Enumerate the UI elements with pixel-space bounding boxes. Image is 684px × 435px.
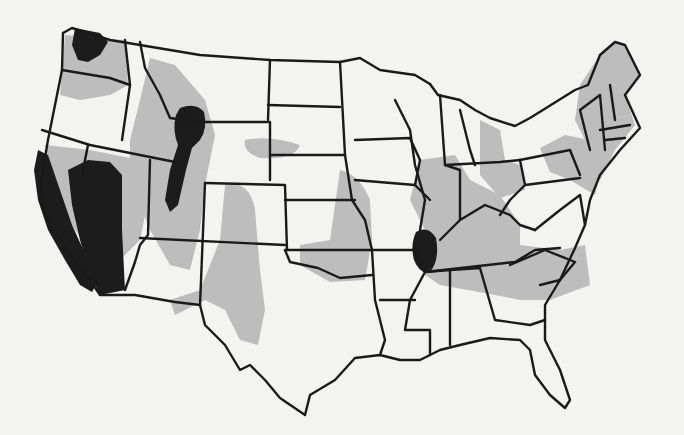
us-map (0, 0, 684, 435)
